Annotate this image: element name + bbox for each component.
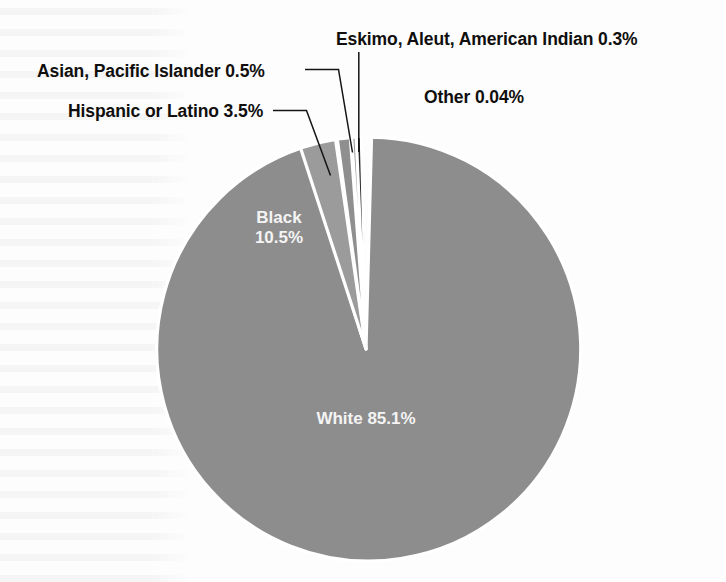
pie-chart: Eskimo, Aleut, American Indian 0.3% Asia… [0,0,726,582]
pie-label-white: White 85.1% [286,409,446,429]
pie-slice-white[interactable] [157,137,581,561]
pie-label-other: Other 0.04% [424,87,524,108]
pie-label-hispanic-or-latino: Hispanic or Latino 3.5% [68,101,263,122]
pie-label-black: Black 10.5% [236,208,322,248]
pie-label-black-name: Black [236,208,322,228]
pie-label-black-value: 10.5% [236,228,322,248]
pie-label-eskimo-aleut-american-indian: Eskimo, Aleut, American Indian 0.3% [336,29,638,50]
pie-label-asian-pacific-islander: Asian, Pacific Islander 0.5% [37,61,265,82]
pie-slices [157,137,581,561]
pie-chart-canvas [0,0,726,582]
